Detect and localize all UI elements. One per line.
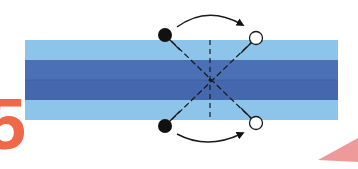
filled-dot-bottom-icon bbox=[158, 119, 172, 133]
top-arrow-icon bbox=[177, 15, 241, 27]
dark-band-lower bbox=[25, 80, 338, 100]
open-circle-top-icon bbox=[250, 32, 263, 45]
open-circle-bottom-icon bbox=[250, 117, 263, 130]
fold-diagram: 5 bbox=[0, 0, 358, 169]
bottom-arrow-icon bbox=[177, 134, 241, 142]
paper-strip bbox=[25, 40, 338, 120]
crossing-point-icon bbox=[209, 79, 212, 82]
top-light-band bbox=[25, 40, 338, 60]
dark-band-upper bbox=[25, 60, 338, 80]
fold-illustration bbox=[0, 0, 358, 169]
filled-dot-top-icon bbox=[158, 28, 172, 42]
corner-triangle-icon bbox=[318, 138, 358, 162]
